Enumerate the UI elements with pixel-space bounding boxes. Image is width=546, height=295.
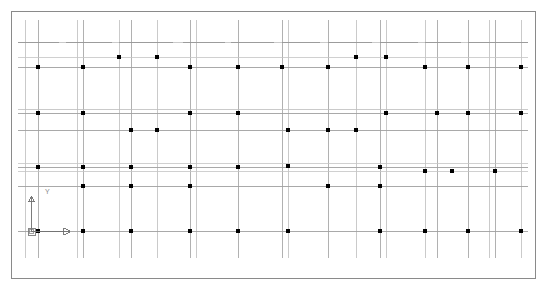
column-marker[interactable] — [326, 65, 330, 69]
column-marker[interactable] — [384, 55, 388, 59]
column-marker[interactable] — [81, 229, 85, 233]
column-marker[interactable] — [129, 229, 133, 233]
column-marker[interactable] — [129, 165, 133, 169]
drawing-svg[interactable]: Y — [0, 0, 546, 295]
column-marker[interactable] — [188, 184, 192, 188]
drawing-canvas[interactable]: Y — [0, 0, 546, 295]
column-marker[interactable] — [36, 65, 40, 69]
column-marker[interactable] — [236, 65, 240, 69]
column-marker[interactable] — [81, 165, 85, 169]
column-marker[interactable] — [286, 164, 290, 168]
column-marker[interactable] — [423, 229, 427, 233]
column-marker[interactable] — [129, 184, 133, 188]
column-marker[interactable] — [519, 229, 523, 233]
column-marker[interactable] — [519, 111, 523, 115]
column-marker[interactable] — [81, 184, 85, 188]
column-marker[interactable] — [117, 55, 121, 59]
column-marker[interactable] — [378, 229, 382, 233]
column-marker[interactable] — [155, 128, 159, 132]
column-marker[interactable] — [354, 55, 358, 59]
column-marker[interactable] — [236, 229, 240, 233]
column-marker[interactable] — [286, 128, 290, 132]
column-marker[interactable] — [423, 65, 427, 69]
canvas-background — [0, 0, 546, 295]
column-marker[interactable] — [280, 65, 284, 69]
column-marker[interactable] — [188, 65, 192, 69]
column-marker[interactable] — [129, 128, 133, 132]
column-marker[interactable] — [155, 55, 159, 59]
column-marker[interactable] — [188, 111, 192, 115]
column-marker[interactable] — [81, 65, 85, 69]
column-marker[interactable] — [423, 169, 427, 173]
column-marker[interactable] — [236, 165, 240, 169]
column-marker[interactable] — [326, 184, 330, 188]
column-marker[interactable] — [384, 111, 388, 115]
column-marker[interactable] — [466, 65, 470, 69]
column-marker[interactable] — [354, 128, 358, 132]
column-marker[interactable] — [466, 229, 470, 233]
column-marker[interactable] — [81, 111, 85, 115]
column-marker[interactable] — [326, 128, 330, 132]
column-marker[interactable] — [378, 165, 382, 169]
column-marker[interactable] — [493, 169, 497, 173]
ucs-y-axis-label: Y — [45, 188, 50, 195]
column-marker[interactable] — [188, 229, 192, 233]
column-marker[interactable] — [466, 111, 470, 115]
column-marker[interactable] — [36, 111, 40, 115]
column-marker[interactable] — [519, 65, 523, 69]
column-marker[interactable] — [450, 169, 454, 173]
column-marker[interactable] — [188, 165, 192, 169]
column-marker[interactable] — [36, 165, 40, 169]
column-marker[interactable] — [236, 111, 240, 115]
column-marker[interactable] — [286, 229, 290, 233]
column-marker[interactable] — [435, 111, 439, 115]
column-marker[interactable] — [378, 184, 382, 188]
